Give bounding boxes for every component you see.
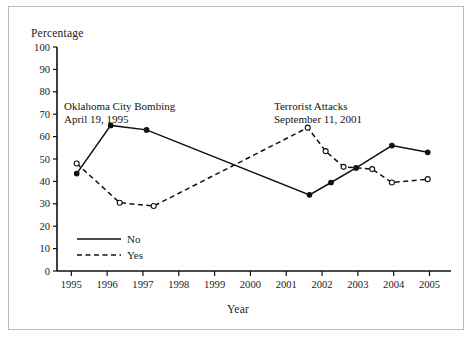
y-tick-label: 90 (39, 64, 50, 75)
x-axis: 1995199619971998199920002001200220032004… (57, 271, 451, 290)
data-point-yes (425, 177, 430, 182)
chart-legend: NoYes (77, 233, 143, 261)
x-tick-label: 2005 (419, 279, 440, 290)
series-line-no (77, 125, 428, 194)
figure-panel: Percentage Year Oklahoma City Bombing Ap… (8, 6, 464, 330)
x-tick-label: 2003 (347, 279, 368, 290)
data-point-yes (305, 125, 310, 130)
x-tick-label: 2004 (383, 279, 405, 290)
data-point-yes (74, 161, 79, 166)
y-tick-label: 40 (39, 176, 50, 187)
data-point-yes (370, 167, 375, 172)
x-tick-label: 1999 (204, 279, 225, 290)
x-tick-label: 1995 (61, 279, 82, 290)
data-point-no (74, 171, 79, 176)
legend-label-no: No (127, 233, 141, 245)
data-point-no (144, 128, 149, 133)
y-tick-label: 100 (34, 42, 50, 53)
data-point-no (108, 123, 113, 128)
data-point-yes (323, 149, 328, 154)
x-tick-label: 1996 (97, 279, 118, 290)
x-tick-label: 2001 (276, 279, 297, 290)
y-tick-label: 80 (39, 86, 50, 97)
y-tick-label: 10 (39, 243, 50, 254)
y-tick-label: 0 (45, 266, 50, 277)
x-tick-label: 1997 (132, 279, 153, 290)
series-line-yes (77, 128, 428, 206)
y-tick-label: 20 (39, 221, 50, 232)
y-tick-label: 30 (39, 198, 50, 209)
y-tick-label: 70 (39, 109, 50, 120)
data-point-no (425, 150, 430, 155)
y-axis: 0102030405060708090100 (34, 42, 57, 277)
data-point-no (329, 180, 334, 185)
x-tick-label: 1998 (168, 279, 189, 290)
x-tick-label: 2002 (311, 279, 332, 290)
data-point-yes (151, 204, 156, 209)
data-point-yes (117, 200, 122, 205)
y-tick-label: 60 (39, 131, 50, 142)
x-tick-label: 2000 (240, 279, 261, 290)
line-chart-svg: 0102030405060708090100 19951996199719981… (9, 7, 465, 331)
data-point-yes (341, 164, 346, 169)
y-tick-label: 50 (39, 154, 50, 165)
data-point-no (390, 143, 395, 148)
data-point-no (307, 193, 312, 198)
data-series-group (74, 123, 430, 208)
legend-label-yes: Yes (127, 249, 143, 261)
chart-plot-area: Percentage Year Oklahoma City Bombing Ap… (9, 7, 465, 331)
data-point-yes (389, 180, 394, 185)
